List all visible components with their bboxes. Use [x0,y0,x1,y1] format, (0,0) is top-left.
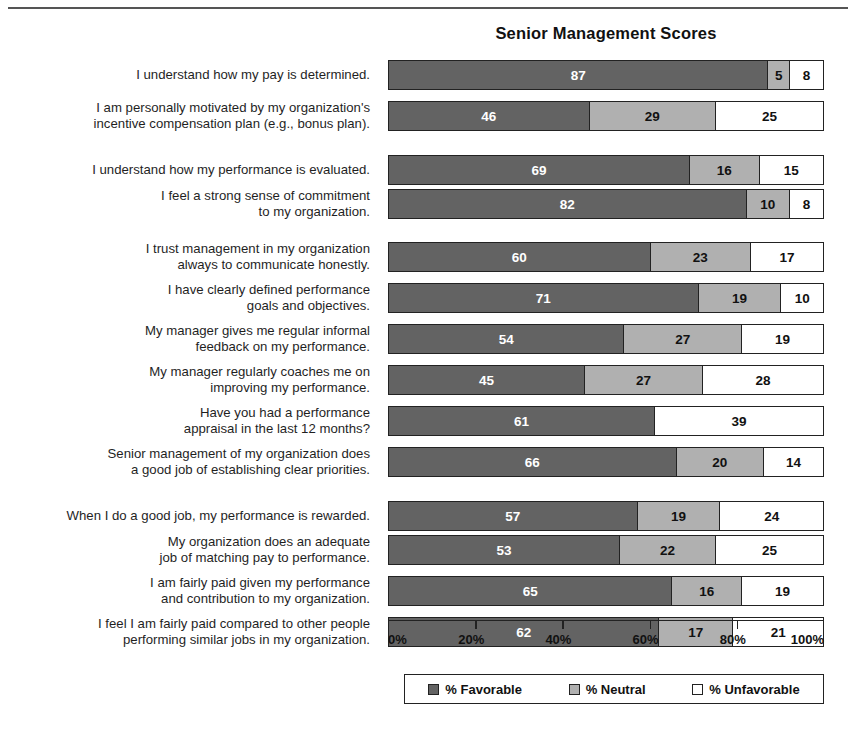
category-label-line: My manager regularly coaches me on [0,364,370,380]
bar-row: 61039 [388,406,824,436]
category-label: My organization does an adequatejob of m… [0,534,370,565]
category-label-line: I understand how my performance is evalu… [0,162,370,178]
category-label-line: I am personally motivated by my organiza… [0,100,370,116]
bar-segment-value: 69 [531,163,546,178]
x-axis-tick-label: 40% [545,632,571,647]
category-label: My manager gives me regular informalfeed… [0,323,370,354]
bar-segment-neutral: 16 [672,577,742,605]
bar-segment-favorable: 71 [389,284,699,312]
category-label-line: My organization does an adequate [0,534,370,550]
category-label-line: I have clearly defined performance [0,282,370,298]
bar-segment-value: 28 [755,373,770,388]
legend-item[interactable]: % Favorable [428,682,522,697]
chart-title: Senior Management Scores [388,24,824,43]
bar-segment-neutral: 22 [620,536,716,564]
stacked-bar-chart: Senior Management Scores I understand ho… [0,0,856,734]
category-label: I understand how my performance is evalu… [0,162,370,178]
bar-row: 711910 [388,283,824,313]
bar-segment-value: 19 [732,291,747,306]
bar-segment-value: 45 [479,373,494,388]
x-axis-line [388,620,824,621]
bar-segment-neutral: 16 [690,156,760,184]
category-label: I have clearly defined performancegoals … [0,282,370,313]
category-label-line: improving my performance. [0,380,370,396]
bar-segment-value: 65 [523,584,538,599]
x-axis-tick-label: 0% [388,632,407,647]
category-label-line: feedback on my performance. [0,339,370,355]
bar-segment-value: 54 [499,332,514,347]
bar-segment-value: 8 [803,197,811,212]
legend-item[interactable]: % Neutral [569,682,646,697]
x-axis-tick-label: 20% [458,632,484,647]
category-label-line: goals and objectives. [0,298,370,314]
bar-segment-value: 27 [636,373,651,388]
bar-segment-unfavorable: 15 [760,156,823,184]
bar-segment-value: 25 [762,109,777,124]
bar-segment-value: 19 [671,509,686,524]
bar-segment-value: 27 [675,332,690,347]
chart-legend: % Favorable% Neutral% Unfavorable [404,674,824,704]
category-label: I trust management in my organizationalw… [0,241,370,272]
category-label-line: to my organization. [0,204,370,220]
x-axis-tick [650,620,651,629]
bar-segment-value: 24 [764,509,779,524]
category-label: I understand how my pay is determined. [0,67,370,83]
bar-segment-neutral: 20 [677,448,764,476]
bar-segment-neutral: 27 [585,366,703,394]
x-axis-tick-labels: 0%20%40%60%80%100% [388,632,824,650]
category-label-line: I am fairly paid given my performance [0,575,370,591]
legend-item[interactable]: % Unfavorable [692,682,799,697]
bar-segment-value: 29 [645,109,660,124]
plot-area: 8758462925691615821086023177119105427194… [388,52,824,617]
bar-segment-neutral: 19 [699,284,782,312]
x-axis-tick [737,620,738,629]
bar-segment-favorable: 61 [389,407,655,435]
bar-segment-unfavorable: 8 [790,190,823,218]
bar-row: 662014 [388,447,824,477]
bar-segment-value: 61 [514,414,529,429]
category-label-line: I understand how my pay is determined. [0,67,370,83]
category-label-line: performing similar jobs in my organizati… [0,632,370,648]
bar-row: 532225 [388,535,824,565]
bar-segment-unfavorable: 19 [742,325,823,353]
bar-segment-neutral: 19 [638,502,721,530]
bar-segment-value: 66 [525,455,540,470]
bar-segment-unfavorable: 17 [751,243,823,271]
bar-segment-value: 87 [571,68,586,83]
bar-segment-value: 15 [784,163,799,178]
category-label-line: job of matching pay to performance. [0,550,370,566]
bar-segment-value: 14 [786,455,801,470]
bar-row: 651619 [388,576,824,606]
bar-segment-favorable: 82 [389,190,747,218]
bar-segment-unfavorable: 19 [742,577,823,605]
bar-segment-unfavorable: 28 [703,366,823,394]
light-gray-swatch-icon [569,684,580,695]
category-label-line: I feel I am fairly paid compared to othe… [0,616,370,632]
category-label: I am personally motivated by my organiza… [0,100,370,131]
bar-segment-unfavorable: 25 [716,102,823,130]
bar-segment-unfavorable: 39 [655,407,823,435]
bar-segment-value: 39 [731,414,746,429]
bar-segment-value: 16 [699,584,714,599]
x-axis-tick [475,620,476,629]
category-label-line: My manager gives me regular informal [0,323,370,339]
white-swatch-icon [692,684,703,695]
bar-segment-favorable: 60 [389,243,651,271]
category-label-line: a good job of establishing clear priorit… [0,462,370,478]
bar-segment-unfavorable: 25 [716,536,823,564]
bar-row: 8758 [388,60,824,90]
category-label-line: I trust management in my organization [0,241,370,257]
bar-segment-value: 25 [762,543,777,558]
bar-segment-neutral: 29 [590,102,716,130]
category-label-line: always to communicate honestly. [0,257,370,273]
bar-segment-value: 10 [760,197,775,212]
bar-segment-favorable: 57 [389,502,638,530]
bar-row: 542719 [388,324,824,354]
x-axis-tick-label: 80% [720,632,746,647]
category-label-line: incentive compensation plan (e.g., bonus… [0,116,370,132]
bar-segment-value: 22 [660,543,675,558]
bar-segment-value: 16 [717,163,732,178]
bar-segment-unfavorable: 10 [781,284,823,312]
bar-segment-neutral: 10 [747,190,791,218]
bar-segment-neutral: 23 [651,243,751,271]
